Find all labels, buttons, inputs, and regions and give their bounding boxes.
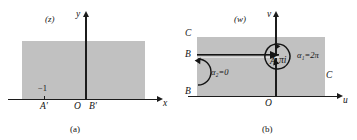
panel-w-plane: u v (w) A πi C B B C α₁=2π α₂=0 O (b) (178, 0, 357, 140)
u-axis-line (188, 96, 338, 98)
v-axis-label: v (267, 10, 271, 20)
label-O-origin-z: O (74, 102, 81, 112)
label-A-prime: A′ (40, 102, 48, 112)
alpha2-zero-arc (190, 57, 212, 87)
tick-label-minus-one: −1 (38, 84, 47, 93)
plane-tag-z: (z) (45, 14, 55, 24)
u-axis-label: u (343, 96, 348, 106)
caption-b: (b) (262, 124, 273, 134)
label-alpha-2: α₂=0 (211, 68, 228, 77)
label-pi-i: πi (279, 56, 286, 66)
y-axis-arrowhead (83, 11, 89, 17)
tick-minus-one (44, 96, 45, 100)
label-C-top-left: C (185, 29, 191, 39)
caption-a: (a) (70, 124, 80, 134)
plane-tag-w: (w) (234, 14, 246, 24)
x-axis-line (8, 99, 158, 101)
label-B-prime: B′ (89, 102, 97, 112)
label-C-right: C (326, 71, 332, 81)
y-axis-label: y (76, 10, 80, 20)
x-axis-label: x (163, 99, 167, 109)
panel-z-plane: x y (z) −1 A′ O B′ (a) (0, 0, 178, 140)
label-alpha-1: α₁=2π (297, 51, 319, 60)
y-axis-line (85, 17, 87, 99)
label-point-A: A (270, 57, 276, 67)
label-B-slit-left: B (185, 50, 191, 60)
label-B-bottom-left: B (185, 87, 191, 97)
label-O-origin-w: O (265, 99, 272, 109)
v-axis-arrowhead (273, 11, 279, 17)
